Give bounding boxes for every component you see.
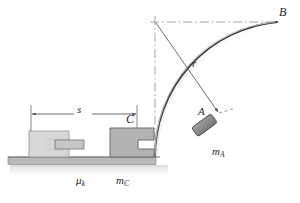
diagram-canvas (0, 0, 300, 203)
label-point-a: A (198, 106, 205, 117)
label-mass-c-sub: C (124, 179, 129, 188)
block-a (191, 114, 217, 137)
label-distance-s: s (77, 104, 81, 115)
label-mass-a-base: m (212, 145, 220, 157)
radius-arrow (156, 23, 218, 112)
block-c (110, 128, 154, 157)
label-mass-c: mC (116, 175, 129, 187)
label-mass-a-sub: A (220, 150, 225, 159)
radius-dashed-extension (219, 108, 236, 113)
label-block-c: C (126, 113, 134, 125)
ground-surface (8, 157, 156, 165)
physics-diagram-figure: B A C r s mA mC μk (0, 0, 300, 203)
ground-shadow (10, 165, 168, 179)
label-friction-sub: k (82, 179, 85, 188)
label-point-b: B (279, 6, 286, 18)
label-mass-c-base: m (116, 174, 124, 186)
label-friction-coefficient: μk (76, 175, 85, 187)
label-mass-a: mA (212, 146, 225, 158)
plunger-rod (55, 140, 84, 149)
label-radius: r (192, 58, 196, 69)
label-friction-base: μ (76, 174, 82, 186)
